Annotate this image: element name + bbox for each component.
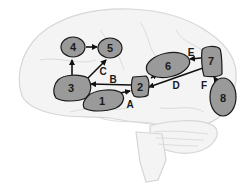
- region-5-label: 5: [107, 42, 113, 54]
- region-5: 5: [98, 38, 122, 58]
- region-2-label: 2: [137, 81, 143, 93]
- brain-diagram: 4 5 3 1 2 6 7 8 A: [0, 0, 250, 186]
- edge-label-d: D: [172, 80, 179, 91]
- region-3: 3: [54, 75, 91, 101]
- edge-label-c: C: [99, 66, 106, 77]
- edge-label-a: A: [126, 99, 133, 110]
- edge-label-f: F: [201, 80, 207, 91]
- edge-7-to-6: [190, 58, 201, 59]
- edge-label-e: E: [188, 47, 195, 58]
- brainstem: [136, 132, 166, 182]
- region-8: 8: [210, 78, 236, 116]
- edge-label-b: B: [109, 74, 116, 85]
- region-8-label: 8: [220, 92, 226, 104]
- region-6-label: 6: [165, 60, 171, 72]
- region-7: 7: [202, 46, 222, 76]
- brain-outline: [19, 9, 236, 182]
- region-4: 4: [61, 37, 85, 57]
- region-7-label: 7: [208, 55, 214, 67]
- region-2: 2: [131, 76, 149, 97]
- region-4-label: 4: [70, 41, 77, 53]
- region-3-label: 3: [68, 82, 74, 94]
- region-1-label: 1: [99, 95, 105, 107]
